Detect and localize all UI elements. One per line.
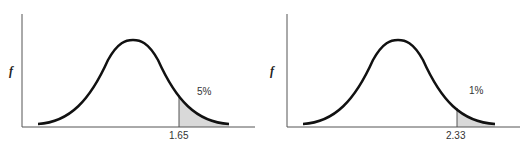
chart-panel-right: f 1% 2.33 [270, 14, 520, 141]
critical-value-label: 2.33 [446, 130, 466, 141]
tail-percent-label: 1% [469, 85, 484, 96]
normal-curve [38, 40, 229, 124]
tail-percent-label: 5% [197, 86, 212, 97]
y-axis-label: f [9, 64, 14, 78]
y-axis-label: f [270, 64, 275, 78]
normal-curve [303, 40, 495, 124]
critical-value-label: 1.65 [169, 130, 189, 141]
distribution-charts: f 5% 1.65 f 1% 2.33 [0, 0, 531, 147]
chart-panel-left: f 5% 1.65 [9, 14, 255, 141]
